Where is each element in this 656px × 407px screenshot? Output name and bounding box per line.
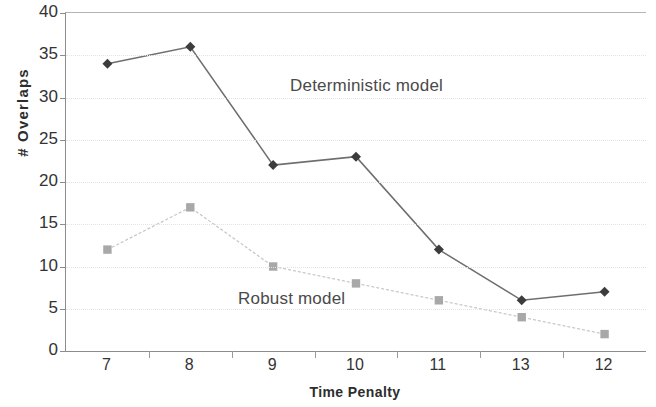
y-axis-tick-label: 30 xyxy=(24,88,58,105)
gridline xyxy=(66,309,646,310)
x-axis-tick-label: 12 xyxy=(595,356,613,374)
data-point-marker xyxy=(435,296,443,304)
series-label-deterministic-model: Deterministic model xyxy=(290,76,443,96)
y-axis-tickmark xyxy=(60,351,66,352)
y-axis-tick-label: 5 xyxy=(24,299,58,316)
y-axis-tickmark xyxy=(60,55,66,56)
data-point-marker xyxy=(600,287,610,297)
series-label-robust-model: Robust model xyxy=(238,289,345,309)
series-line xyxy=(107,207,604,334)
y-axis-tick-label: 20 xyxy=(24,172,58,189)
x-axis-tick-label: 10 xyxy=(346,356,364,374)
data-point-marker xyxy=(102,59,112,69)
x-axis-title: Time Penalty xyxy=(65,384,645,400)
x-axis-tick-label: 8 xyxy=(185,356,194,374)
y-axis-tick-label: 15 xyxy=(24,214,58,231)
x-axis-tick-label: 13 xyxy=(512,356,530,374)
y-axis-tick-label: 10 xyxy=(24,257,58,274)
overlaps-vs-time-penalty-chart: # Overlaps 0510152025303540 Deterministi… xyxy=(0,0,656,407)
data-point-marker xyxy=(352,279,360,287)
y-axis-tickmark xyxy=(60,182,66,183)
data-point-marker xyxy=(268,160,278,170)
y-axis-tickmark xyxy=(60,267,66,268)
data-point-marker xyxy=(517,295,527,305)
x-axis-tick-label: 9 xyxy=(268,356,277,374)
data-point-marker xyxy=(186,203,194,211)
y-axis-tick-label: 35 xyxy=(24,45,58,62)
gridline xyxy=(66,182,646,183)
gridline xyxy=(66,224,646,225)
y-axis-tickmark xyxy=(60,98,66,99)
y-axis-tick-labels: 0510152025303540 xyxy=(18,0,58,407)
y-axis-tickmark xyxy=(60,309,66,310)
data-point-marker xyxy=(103,245,111,253)
gridline xyxy=(66,98,646,99)
gridline xyxy=(66,55,646,56)
x-axis-tick-label: 11 xyxy=(430,356,447,374)
plot-area: Deterministic model Robust model xyxy=(65,12,646,352)
y-axis-tickmark xyxy=(60,224,66,225)
gridline xyxy=(66,267,646,268)
x-axis-tick-label: 7 xyxy=(102,356,111,374)
y-axis-tickmark xyxy=(60,140,66,141)
data-point-marker xyxy=(185,42,195,52)
data-point-marker xyxy=(600,330,608,338)
y-axis-tick-label: 0 xyxy=(24,341,58,358)
gridline xyxy=(66,140,646,141)
y-axis-tick-label: 25 xyxy=(24,130,58,147)
y-axis-tick-label: 40 xyxy=(24,3,58,20)
data-point-marker xyxy=(518,313,526,321)
y-axis-tickmark xyxy=(60,13,66,14)
x-axis-tick-labels: 78910111312 xyxy=(65,356,645,382)
